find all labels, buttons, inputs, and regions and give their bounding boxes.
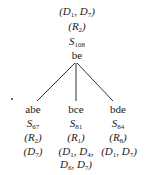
root-node-label: be	[62, 49, 92, 61]
root-conditions: (D1, D7)	[56, 5, 98, 17]
stray-dot	[11, 98, 13, 100]
child-abe-state: S67	[18, 117, 48, 129]
child-abe-conditions: (D7)	[18, 145, 48, 157]
child-bde-rule: (R8)	[103, 131, 133, 143]
child-abe-label: abe	[18, 103, 48, 115]
child-bde-label: bde	[103, 103, 133, 115]
child-abe-rule: (R2)	[18, 131, 48, 143]
child-bde-state: S84	[103, 117, 133, 129]
root-rule: (R2)	[62, 20, 92, 32]
root-state: S108	[60, 35, 94, 47]
child-bce-conditions-line1: (D1, D4,	[53, 145, 99, 157]
child-bce-label: bce	[61, 103, 91, 115]
child-bce-conditions-line2: D6, D7)	[53, 158, 99, 170]
child-bce-state: S81	[61, 117, 91, 129]
edge-be-bde	[77, 63, 113, 101]
child-bce-rule: (R1)	[61, 131, 91, 143]
edge-be-abe	[37, 63, 75, 101]
child-bde-conditions: (D1, D7)	[97, 145, 141, 157]
